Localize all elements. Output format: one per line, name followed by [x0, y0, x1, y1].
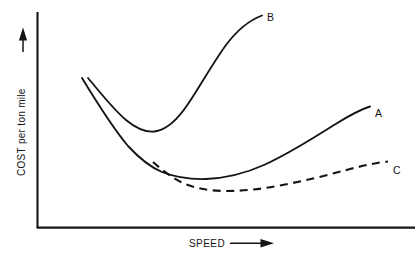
- curve-a-label: A: [375, 107, 382, 119]
- curve-b-label: B: [267, 11, 274, 23]
- chart-figure: COST per ton mile SPEED B A C: [0, 0, 419, 264]
- curve-b-path: [88, 16, 262, 132]
- curve-a-path: [82, 78, 370, 179]
- arrow-up-icon: [19, 28, 27, 53]
- x-axis-title: SPEED: [189, 238, 225, 249]
- curve-c-path: [153, 162, 388, 192]
- cost-vs-speed-line-chart: COST per ton mile SPEED B A C: [0, 0, 419, 264]
- y-axis-title: COST per ton mile: [16, 88, 27, 176]
- curve-c-label: C: [393, 164, 401, 176]
- arrow-right-icon: [230, 239, 274, 248]
